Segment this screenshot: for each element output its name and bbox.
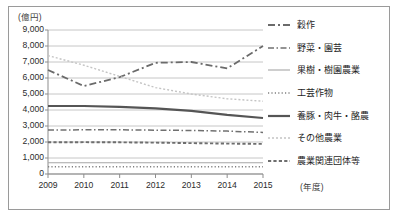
y-tick-label: 8,000 (0, 40, 44, 50)
x-tick-label: 2011 (103, 180, 137, 190)
legend-item-label: 野菜・園芸 (297, 43, 342, 53)
legend-item-5: その他農業 (268, 127, 392, 150)
legend-item-6: 農業関連団体等 (268, 150, 392, 173)
x-tick-label: 2012 (139, 180, 173, 190)
x-tick-label: 2015 (246, 180, 280, 190)
legend-line-swatch-icon (268, 43, 290, 53)
x-tick-label: 2009 (31, 180, 65, 190)
legend-item-label: 果樹・樹園農業 (297, 65, 360, 75)
series-line-1 (48, 130, 263, 133)
x-tick-label: 2013 (174, 180, 208, 190)
series-line-0 (48, 46, 263, 86)
legend-line-swatch-icon (268, 133, 290, 143)
x-tick-label: 2014 (210, 180, 244, 190)
legend-item-2: 果樹・樹園農業 (268, 59, 392, 82)
y-tick-label: 3,000 (0, 120, 44, 130)
legend-item-4: 養豚・肉牛・酪農 (268, 104, 392, 127)
legend-line-swatch-icon (268, 20, 290, 30)
y-tick-label: 4,000 (0, 104, 44, 114)
y-tick-label: 6,000 (0, 72, 44, 82)
y-tick-label: 1,000 (0, 152, 44, 162)
chart-screenshot: (億円) (年度) 9,0008,0007,0006,0005,0004,000… (0, 0, 398, 217)
legend-line-swatch-icon (268, 156, 290, 166)
y-tick-label: 5,000 (0, 88, 44, 98)
legend-line-swatch-icon (268, 88, 290, 98)
legend-line-swatch-icon (268, 111, 290, 121)
x-tick-label: 2010 (67, 180, 101, 190)
legend-item-1: 野菜・園芸 (268, 37, 392, 60)
legend-item-0: 穀作 (268, 14, 392, 37)
y-tick-label: 0 (0, 168, 44, 178)
y-tick-label: 7,000 (0, 56, 44, 66)
legend-item-label: 穀作 (297, 20, 315, 30)
y-tick-label: 2,000 (0, 136, 44, 146)
series-line-4 (48, 106, 263, 118)
y-tick-label: 9,000 (0, 24, 44, 34)
legend-item-label: 工芸作物 (297, 88, 333, 98)
legend-item-3: 工芸作物 (268, 82, 392, 105)
legend-item-label: その他農業 (297, 133, 342, 143)
legend-item-label: 農業関連団体等 (297, 156, 360, 166)
legend-line-swatch-icon (268, 65, 290, 75)
series-line-6 (48, 142, 263, 144)
legend-item-label: 養豚・肉牛・酪農 (297, 111, 369, 121)
chart-legend: 穀作野菜・園芸果樹・樹園農業工芸作物養豚・肉牛・酪農その他農業農業関連団体等 (268, 14, 392, 172)
